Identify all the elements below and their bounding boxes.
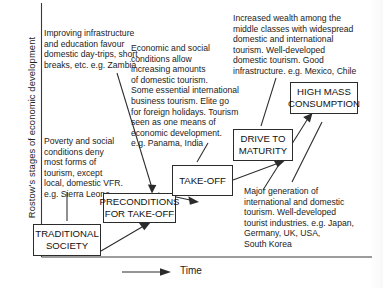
stage-box-take-off: TAKE-OFF [172,165,233,196]
note-drive-mexico-chile: Increased wealth among the middle classe… [233,13,379,77]
page-edge-bleed [369,0,383,288]
y-axis-label: Rostow's stages of economic development [26,23,37,233]
note-traditional-sierra-leone: Poverty and social conditions deny most … [44,136,140,200]
stage-box-drive-to-maturity: DRIVE TO MATURITY [233,129,293,161]
stage-box-preconditions-for-take-off: PRECONDITIONS FOR TAKE-OFF [103,193,176,223]
rostow-stages-diagram: Rostow's stages of economic development … [0,0,383,288]
stage-box-traditional-society: TRADITIONAL SOCIETY [33,224,101,256]
stage-box-high-mass-consumption: HIGH MASS CONSUMPTION [290,82,358,114]
x-axis-label: Time [180,265,202,276]
note-highmass-japan-korea: Major generation of international and do… [244,186,364,250]
